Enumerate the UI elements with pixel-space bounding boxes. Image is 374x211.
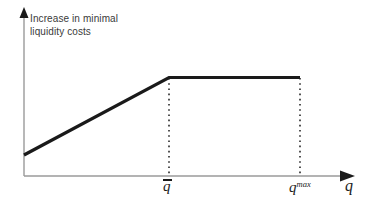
qbar-glyph-wrap: q <box>163 178 171 195</box>
overbar-icon <box>163 179 172 181</box>
x-tick-label-qmax: qmax <box>289 178 311 196</box>
cost-curve-line <box>24 78 300 156</box>
y-axis-label: Increase in minimalliquidity costs <box>30 13 118 38</box>
x-tick-label-qmax-sup: max <box>297 179 311 189</box>
x-tick-label-qbar: q <box>163 178 171 195</box>
y-axis-arrowhead-icon <box>20 7 29 18</box>
y-axis-label-line1: Increase in minimal <box>30 13 118 24</box>
x-axis-name: q <box>345 177 353 195</box>
chart-figure: Increase in minimalliquidity costs q qma… <box>0 0 374 211</box>
x-tick-label-qmax-base: q <box>289 179 297 195</box>
y-axis-label-line2: liquidity costs <box>30 26 91 37</box>
